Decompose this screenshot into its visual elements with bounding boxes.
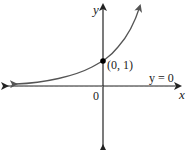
exponential-curve <box>16 6 140 84</box>
point-label: (0, 1) <box>107 59 133 71</box>
asymptote-label: y = 0 <box>149 72 174 84</box>
origin-label: 0 <box>93 90 99 102</box>
point-0-1-marker <box>100 58 106 64</box>
x-axis-label: x <box>179 88 185 101</box>
y-axis-label: y <box>93 3 99 16</box>
exponential-graph: y x 0 (0, 1) y = 0 <box>0 0 186 150</box>
